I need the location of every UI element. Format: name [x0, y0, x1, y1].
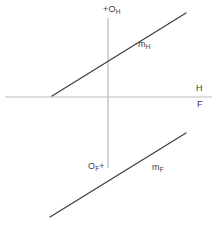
origin-h-letter: O — [108, 4, 115, 14]
origin-h-subscript: H — [116, 8, 121, 15]
line-mf-letter: m — [152, 162, 160, 172]
plane-label-f: F — [197, 100, 203, 109]
plane-label-h: H — [196, 84, 203, 93]
origin-label-h: +OH — [103, 5, 120, 14]
line-projection-mf — [50, 133, 186, 217]
line-label-mf: mF — [152, 163, 164, 172]
line-mh-subscript: H — [146, 43, 151, 50]
line-label-mh: mH — [138, 40, 150, 49]
line-mf-subscript: F — [160, 166, 164, 173]
line-projection-mh — [52, 13, 186, 96]
projection-drawing-canvas — [0, 0, 217, 229]
line-mh-letter: m — [138, 39, 146, 49]
origin-label-f: OF+ — [88, 162, 105, 171]
origin-f-plus-mark: + — [99, 161, 104, 171]
monge-projection-figure: +OH OF+ H F mH mF — [0, 0, 217, 229]
origin-f-subscript: F — [95, 165, 99, 172]
